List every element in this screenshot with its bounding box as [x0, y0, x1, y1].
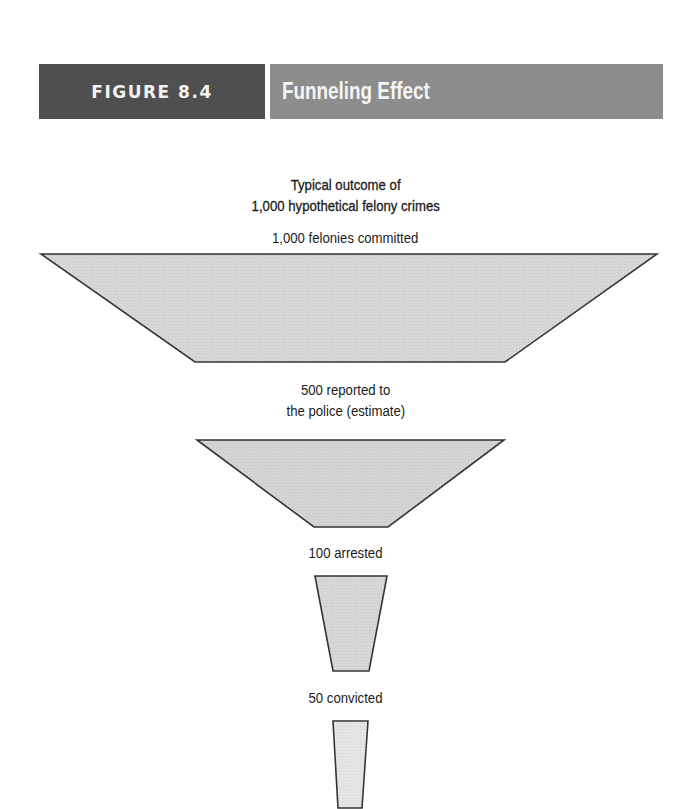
funnel-diagram: [0, 0, 691, 809]
funnel-stage-convicted: [333, 721, 368, 808]
funnel-stage-arrested: [315, 576, 387, 671]
funnel-stage-reported: [197, 440, 504, 527]
funnel-stage-committed: [41, 254, 657, 362]
